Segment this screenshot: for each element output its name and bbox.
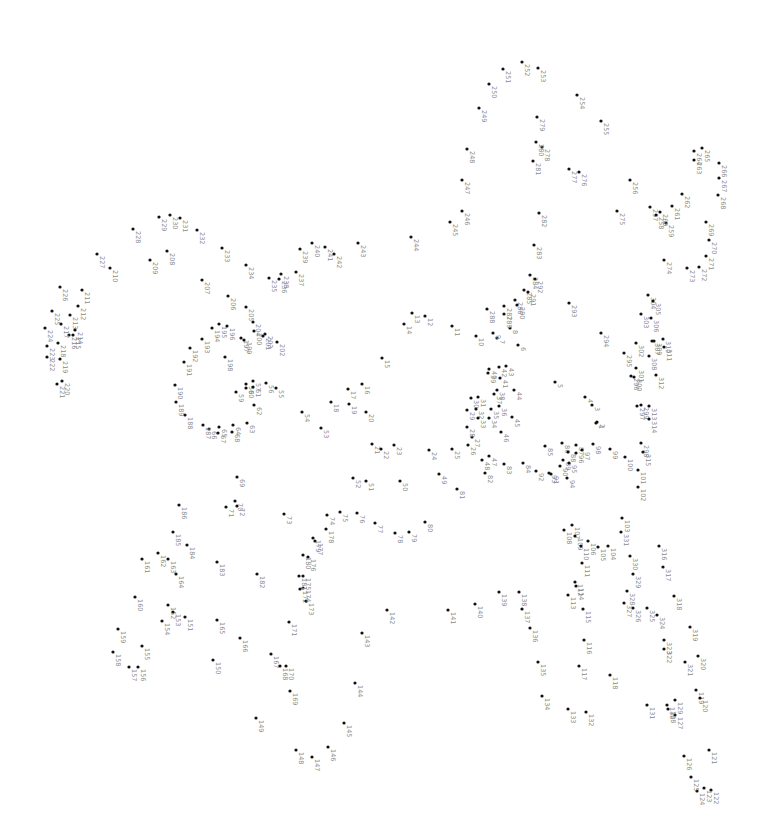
puzzle-point: 161 xyxy=(140,557,151,573)
puzzle-number-label: 69 xyxy=(238,479,246,487)
puzzle-point: 44 xyxy=(512,388,523,400)
puzzle-number-label: 148 xyxy=(297,752,305,764)
puzzle-point: 192 xyxy=(188,346,199,362)
puzzle-point: 255 xyxy=(599,119,610,135)
puzzle-number-label: 248 xyxy=(468,151,476,163)
puzzle-number-label: 22 xyxy=(382,451,390,459)
puzzle-number-label: 36 xyxy=(500,408,508,416)
puzzle-point: 277 xyxy=(567,167,578,183)
puzzle-point: 302 xyxy=(634,341,645,357)
puzzle-number-label: 309 xyxy=(655,343,663,355)
puzzle-number-label: 317 xyxy=(664,569,672,581)
puzzle-number-label: 67 xyxy=(219,435,227,443)
puzzle-number-label: 216 xyxy=(70,337,78,349)
puzzle-number-label: 306 xyxy=(652,320,660,332)
puzzle-number-label: 14 xyxy=(405,326,413,334)
puzzle-number-label: 90 xyxy=(561,468,569,476)
puzzle-number-label: 125 xyxy=(692,779,700,791)
puzzle-point: 227 xyxy=(95,252,106,268)
puzzle-number-label: 4 xyxy=(586,399,594,403)
puzzle-point: 312 xyxy=(654,373,665,389)
puzzle-number-label: 327 xyxy=(625,605,633,617)
puzzle-point: 280 xyxy=(534,140,545,156)
puzzle-point: 178 xyxy=(324,527,335,543)
puzzle-number-label: 269 xyxy=(707,224,715,236)
puzzle-number-label: 283 xyxy=(535,247,543,259)
puzzle-point: 41 xyxy=(498,376,509,388)
puzzle-point: 14 xyxy=(402,322,413,334)
puzzle-number-label: 186 xyxy=(180,507,188,519)
puzzle-point: 49 xyxy=(437,472,448,484)
puzzle-number-label: 244 xyxy=(412,239,420,251)
puzzle-number-label: 157 xyxy=(130,669,138,681)
puzzle-number-label: 116 xyxy=(585,642,593,654)
puzzle-point: 191 xyxy=(182,360,193,376)
dot-to-dot-canvas: 1234567891011121314151617181920212223242… xyxy=(0,0,758,837)
puzzle-number-label: 169 xyxy=(291,693,299,705)
puzzle-point: 245 xyxy=(448,220,459,236)
puzzle-number-label: 330 xyxy=(631,558,639,570)
puzzle-number-label: 81 xyxy=(458,491,466,499)
puzzle-number-label: 219 xyxy=(61,361,69,373)
puzzle-point: 182 xyxy=(255,572,266,588)
puzzle-number-label: 259 xyxy=(667,225,675,237)
puzzle-number-label: 134 xyxy=(543,698,551,710)
puzzle-number-label: 326 xyxy=(634,610,642,622)
puzzle-number-label: 279 xyxy=(538,119,546,131)
puzzle-number-label: 302 xyxy=(637,345,645,357)
puzzle-number-label: 16 xyxy=(363,386,371,394)
puzzle-number-label: 311 xyxy=(665,349,673,361)
puzzle-point: 23 xyxy=(392,443,403,455)
puzzle-number-label: 31 xyxy=(479,399,487,407)
puzzle-number-label: 104 xyxy=(609,548,617,560)
puzzle-point: 158 xyxy=(111,650,122,666)
puzzle-point: 330 xyxy=(628,554,639,570)
puzzle-point: 308 xyxy=(647,354,658,370)
puzzle-point: 71 xyxy=(224,505,235,517)
puzzle-point: 124 xyxy=(695,789,706,805)
puzzle-point: 121 xyxy=(707,748,718,764)
puzzle-number-label: 163 xyxy=(169,561,177,573)
puzzle-point: 53 xyxy=(319,426,330,438)
puzzle-point: 82 xyxy=(483,471,494,483)
puzzle-number-label: 63 xyxy=(248,425,256,433)
puzzle-number-label: 323 xyxy=(665,642,673,654)
puzzle-number-label: 233 xyxy=(223,250,231,262)
puzzle-number-label: 192 xyxy=(191,350,199,362)
puzzle-point: 159 xyxy=(116,627,127,643)
puzzle-point: 253 xyxy=(536,66,547,82)
puzzle-point: 186 xyxy=(177,503,188,519)
puzzle-number-label: 24 xyxy=(430,452,438,460)
puzzle-number-label: 308 xyxy=(650,358,658,370)
puzzle-number-label: 221 xyxy=(58,386,66,398)
puzzle-number-label: 190 xyxy=(176,387,184,399)
puzzle-number-label: 313 xyxy=(650,408,658,420)
puzzle-number-label: 320 xyxy=(699,658,707,670)
puzzle-point: 19 xyxy=(347,402,358,414)
puzzle-number-label: 111 xyxy=(583,565,591,577)
puzzle-point: 183 xyxy=(215,560,226,576)
puzzle-number-label: 17 xyxy=(349,391,357,399)
puzzle-number-label: 230 xyxy=(171,217,179,229)
puzzle-number-label: 280 xyxy=(537,144,545,156)
puzzle-number-label: 147 xyxy=(313,759,321,771)
puzzle-number-label: 13 xyxy=(413,315,421,323)
puzzle-number-label: 265 xyxy=(703,150,711,162)
puzzle-number-label: 2 xyxy=(598,424,606,428)
puzzle-number-label: 137 xyxy=(523,611,531,623)
puzzle-number-label: 294 xyxy=(602,335,610,347)
puzzle-point: 288 xyxy=(485,307,496,323)
puzzle-number-label: 218 xyxy=(59,345,67,357)
puzzle-point: 108 xyxy=(562,528,573,544)
puzzle-point: 262 xyxy=(680,192,691,208)
puzzle-point: 243 xyxy=(356,241,367,257)
puzzle-number-label: 228 xyxy=(134,231,142,243)
puzzle-number-label: 49 xyxy=(440,476,448,484)
puzzle-point: 77 xyxy=(373,521,384,533)
puzzle-number-label: 140 xyxy=(476,606,484,618)
puzzle-point: 205 xyxy=(244,305,255,321)
puzzle-point: 274 xyxy=(662,258,673,274)
puzzle-point: 294 xyxy=(599,331,610,347)
puzzle-point: 5 xyxy=(553,380,564,388)
puzzle-point: 151 xyxy=(183,615,194,631)
